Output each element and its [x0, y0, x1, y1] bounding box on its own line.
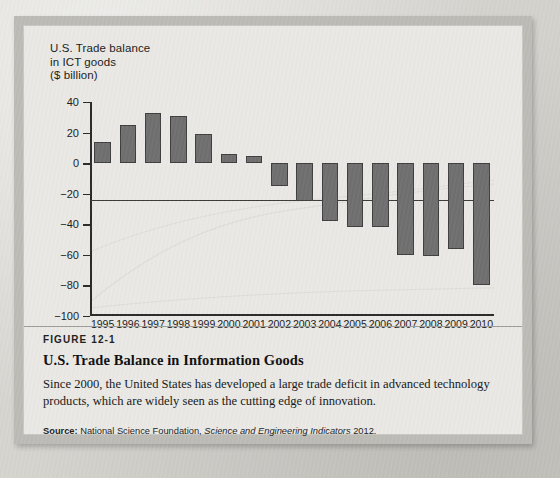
x-tick-label-1999: 1999	[192, 318, 215, 330]
bar-2003	[296, 163, 313, 201]
bar-1996	[120, 125, 137, 163]
y-tick-mark	[83, 224, 90, 225]
y-tick-mark	[83, 255, 90, 256]
y-tick-label: −20	[60, 188, 79, 200]
y-tick-label: −100	[54, 310, 79, 322]
caption-block: FIGURE 12-1 U.S. Trade Balance in Inform…	[43, 334, 505, 409]
bar-series	[90, 102, 494, 316]
x-tick-label-2006: 2006	[369, 318, 392, 330]
y-tick-label: −80	[60, 279, 79, 291]
x-tick-label-2007: 2007	[394, 318, 417, 330]
source-label: Source:	[43, 426, 78, 436]
x-tick-label-2003: 2003	[293, 318, 316, 330]
figure-description: Since 2000, the United States has develo…	[43, 376, 505, 409]
bar-2009	[448, 163, 465, 249]
x-tick-label-1997: 1997	[141, 318, 164, 330]
figure-inner-panel: U.S. Trade balance in ICT goods ($ billi…	[23, 25, 523, 435]
y-tick-mark	[83, 102, 90, 103]
x-tick-label-1996: 1996	[116, 318, 139, 330]
bar-2004	[322, 163, 339, 221]
y-tick-mark	[83, 194, 90, 195]
y-tick-label: −60	[60, 249, 79, 261]
page-background: U.S. Trade balance in ICT goods ($ billi…	[0, 0, 560, 478]
figure-number: FIGURE 12-1	[43, 334, 505, 345]
bar-2008	[423, 163, 440, 256]
x-tick-label-2000: 2000	[217, 318, 240, 330]
y-tick-label: 40	[67, 96, 79, 108]
y-tick-label: 20	[67, 127, 79, 139]
x-tick-label-1995: 1995	[91, 318, 114, 330]
x-tick-label-1998: 1998	[167, 318, 190, 330]
x-tick-label-2005: 2005	[343, 318, 366, 330]
bar-1997	[145, 113, 162, 163]
y-tick-label: −40	[60, 218, 79, 230]
source-organization: National Science Foundation,	[80, 426, 201, 436]
chart-axis-title: U.S. Trade balance in ICT goods ($ billi…	[50, 42, 150, 83]
x-tick-label-2004: 2004	[318, 318, 341, 330]
bar-2007	[397, 163, 414, 255]
bar-2001	[246, 156, 263, 164]
y-tick-label: 0	[73, 157, 79, 169]
y-tick-mark	[83, 163, 90, 164]
bar-1999	[195, 134, 212, 163]
x-tick-label-2001: 2001	[242, 318, 265, 330]
source-publication: Science and Engineering Indicators	[204, 426, 350, 436]
source-year: 2012.	[353, 426, 376, 436]
bar-1998	[170, 116, 187, 163]
bar-2006	[372, 163, 389, 227]
plot-area: 40200−20−40−60−80−100	[90, 102, 494, 316]
y-tick-mark	[83, 285, 90, 286]
figure-frame: U.S. Trade balance in ICT goods ($ billi…	[14, 16, 532, 444]
figure-source: Source: National Science Foundation, Sci…	[43, 426, 376, 436]
y-tick-mark	[83, 133, 90, 134]
bar-2010	[473, 163, 490, 285]
x-tick-label-2008: 2008	[419, 318, 442, 330]
chart: U.S. Trade balance in ICT goods ($ billi…	[24, 26, 522, 326]
caption-divider	[24, 326, 522, 327]
bar-1995	[94, 142, 111, 163]
bar-2005	[347, 163, 364, 227]
y-tick-mark	[83, 316, 90, 317]
x-tick-label-2010: 2010	[470, 318, 493, 330]
figure-title: U.S. Trade Balance in Information Goods	[43, 352, 505, 369]
bar-2000	[221, 154, 238, 163]
bar-2002	[271, 163, 288, 186]
x-tick-label-2002: 2002	[268, 318, 291, 330]
x-tick-label-2009: 2009	[444, 318, 467, 330]
